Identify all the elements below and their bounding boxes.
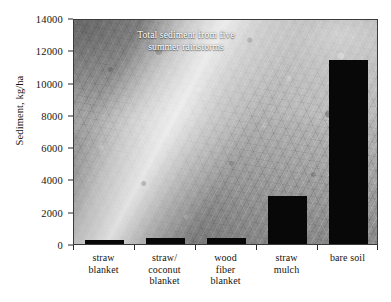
y-axis-tick-labels: 02000400060008000100001200014000 [0, 0, 70, 302]
y-tick-label: 8000 [41, 110, 63, 121]
y-tick-label: 12000 [36, 46, 63, 57]
bar [85, 240, 124, 244]
x-axis-category-labels: straw blanketstraw/ coconut blanketwood … [73, 252, 378, 300]
y-tick-label: 0 [58, 240, 63, 251]
x-tick-mark [256, 245, 257, 250]
x-tick-mark [377, 245, 378, 250]
y-tick-label: 2000 [41, 207, 63, 218]
x-axis-ticks [73, 245, 378, 251]
y-tick-label: 14000 [36, 14, 63, 25]
y-tick-label: 10000 [36, 78, 63, 89]
x-tick-mark [195, 245, 196, 250]
x-category-label: straw/ coconut blanket [134, 252, 195, 287]
x-category-label: bare soil [317, 252, 378, 264]
x-tick-mark [73, 245, 74, 250]
bar [207, 238, 246, 244]
bar [329, 60, 368, 244]
bar [268, 196, 307, 244]
x-category-label: wood fiber blanket [195, 252, 256, 287]
x-category-label: straw blanket [73, 252, 134, 275]
y-tick-label: 4000 [41, 175, 63, 186]
bar-chart: Sediment, kg/ha 020004000600080001000012… [0, 0, 391, 302]
x-tick-mark [134, 245, 135, 250]
plot-area: Total sediment from five summer rainstor… [73, 19, 378, 245]
x-tick-mark [317, 245, 318, 250]
x-category-label: straw mulch [256, 252, 317, 275]
bars-layer [74, 20, 377, 244]
y-tick-label: 6000 [41, 143, 63, 154]
bar [146, 238, 185, 244]
